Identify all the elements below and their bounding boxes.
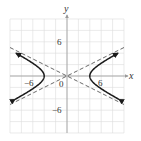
y-tick-neg6: −6 xyxy=(52,105,62,115)
hyperbola-plot: y x 6 −6 −6 0 6 xyxy=(0,0,141,141)
y-tick-6: 6 xyxy=(57,37,62,47)
axes xyxy=(10,15,128,133)
y-axis-label: y xyxy=(63,3,69,14)
x-tick-6: 6 xyxy=(98,78,103,88)
x-tick-neg6: −6 xyxy=(24,78,34,88)
origin-label: 0 xyxy=(59,79,64,89)
x-axis-label: x xyxy=(128,70,134,81)
